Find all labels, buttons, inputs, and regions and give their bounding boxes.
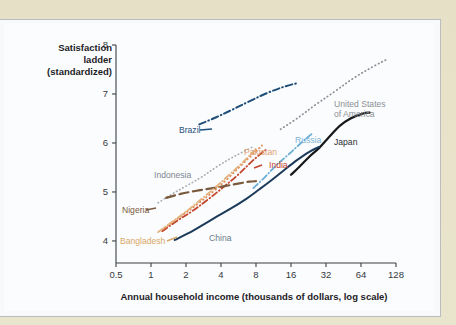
x-tick-label: 1 [148, 269, 153, 280]
leader-line-india [254, 165, 262, 168]
x-tick-label: 32 [321, 269, 332, 280]
x-tick-label: 128 [388, 269, 404, 280]
series-label-indonesia: Indonesia [154, 170, 191, 180]
series-label-india: India [269, 160, 288, 170]
y-axis-label-line-1: Satisfaction [58, 42, 112, 53]
satisfaction-vs-income-chart: 45678 0.51248163264128 BrazilUnited Stat… [4, 23, 434, 311]
series-line-bangladesh [158, 148, 258, 232]
y-axis-label-line-3: (standardized) [47, 66, 112, 77]
leader-line-brazil [200, 129, 212, 130]
y-tick-label: 6 [103, 137, 108, 148]
series-label-china: China [209, 233, 232, 243]
series-label-russia: Russia [295, 135, 321, 145]
figure-panel: 45678 0.51248163264128 BrazilUnited Stat… [0, 20, 440, 316]
x-tick-label: 8 [253, 269, 258, 280]
screenshot-root: 45678 0.51248163264128 BrazilUnited Stat… [0, 0, 456, 325]
x-tick-label: 2 [183, 269, 188, 280]
y-axis-label-line-2: ladder [83, 54, 112, 65]
x-tick-label: 4 [218, 269, 223, 280]
figure-canvas: 45678 0.51248163264128 BrazilUnited Stat… [4, 23, 434, 311]
series-label-bangladesh: Bangladesh [120, 236, 166, 246]
x-tick-label: 16 [286, 269, 297, 280]
series-label-united-states-of-america: of America [334, 109, 375, 119]
series-label-pakistan: Pakistan [244, 147, 277, 157]
x-axis-ticks: 0.51248163264128 [109, 263, 404, 280]
x-tick-label: 0.5 [109, 269, 122, 280]
series-label-japan: Japan [334, 137, 358, 147]
y-tick-label: 7 [103, 88, 108, 99]
y-tick-label: 5 [103, 186, 108, 197]
y-tick-label: 4 [103, 235, 108, 246]
series-line-brazil [199, 83, 297, 124]
series-label-nigeria: Nigeria [122, 205, 149, 215]
series-label-united-states-of-america: United States [334, 99, 386, 109]
x-tick-label: 64 [356, 269, 367, 280]
x-axis-title: Annual household income (thousands of do… [120, 291, 387, 302]
series-line-china [175, 147, 320, 240]
series-label-brazil: Brazil [179, 125, 201, 135]
